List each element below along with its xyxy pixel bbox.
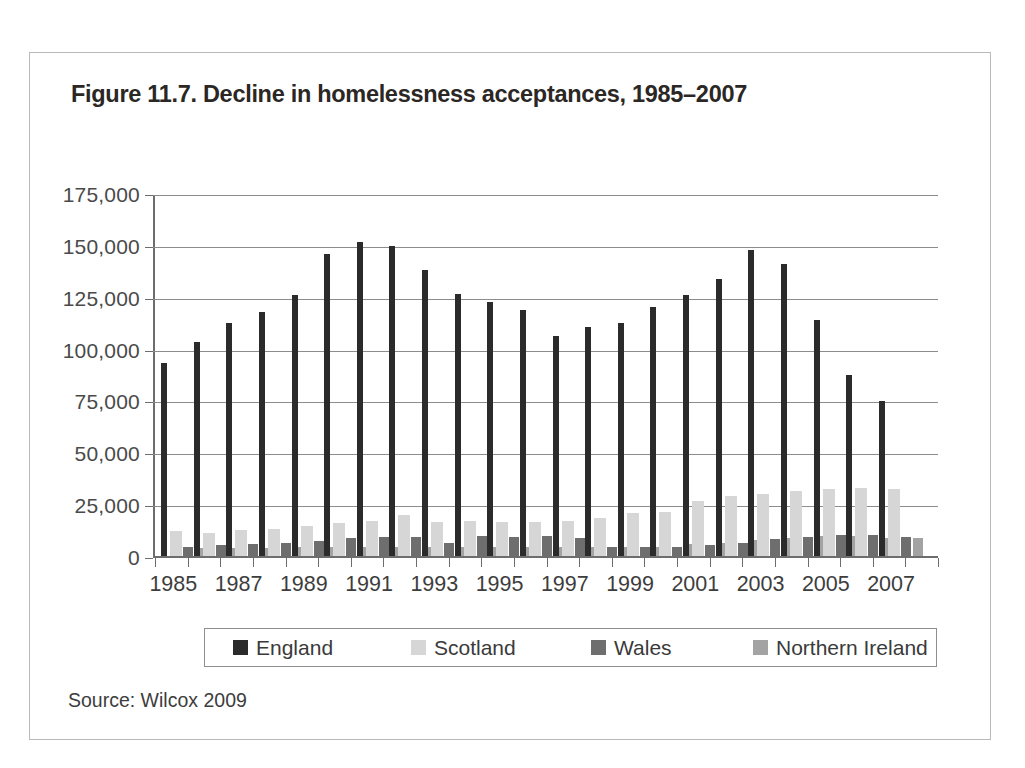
y-axis-label: 0 bbox=[128, 546, 140, 570]
bar-england-1987 bbox=[226, 323, 232, 556]
legend-swatch-icon bbox=[233, 640, 248, 655]
bar-group-1990 bbox=[322, 195, 355, 556]
x-tick-mark bbox=[677, 558, 678, 567]
bar-group-1987 bbox=[224, 195, 257, 556]
x-axis-label-2003: 2003 bbox=[737, 572, 785, 597]
legend-item-northern-ireland[interactable]: Northern Ireland bbox=[753, 636, 928, 660]
y-axis-label: 25,000 bbox=[75, 494, 140, 518]
x-axis-label-2001: 2001 bbox=[671, 572, 719, 597]
x-tick-mark bbox=[383, 558, 384, 567]
bar-scotland-1998 bbox=[594, 518, 606, 556]
y-tick-mark bbox=[145, 506, 153, 507]
x-tick-mark bbox=[481, 558, 482, 567]
bar-england-1997 bbox=[553, 336, 559, 556]
bar-england-1996 bbox=[520, 310, 526, 556]
bar-england-1989 bbox=[292, 295, 298, 556]
y-axis-label: 75,000 bbox=[75, 390, 140, 414]
x-axis-label-1997: 1997 bbox=[541, 572, 589, 597]
y-tick-mark bbox=[145, 299, 153, 300]
x-axis-label-1991: 1991 bbox=[345, 572, 393, 597]
x-tick-mark bbox=[905, 558, 906, 567]
x-tick-mark bbox=[644, 558, 645, 567]
bar-england-1992 bbox=[389, 246, 395, 556]
bar-scotland-1995 bbox=[496, 522, 508, 556]
chart-legend: EnglandScotlandWalesNorthern Ireland bbox=[204, 628, 937, 667]
legend-swatch-icon bbox=[411, 640, 426, 655]
x-tick-mark bbox=[155, 558, 156, 567]
bar-scotland-1997 bbox=[562, 521, 574, 556]
bar-scotland-1996 bbox=[529, 522, 541, 556]
bar-scotland-2003 bbox=[757, 494, 769, 556]
bar-scotland-1987 bbox=[235, 530, 247, 556]
source-note: Source: Wilcox 2009 bbox=[68, 689, 247, 712]
bar-scotland-1986 bbox=[203, 533, 215, 556]
bar-england-1985 bbox=[161, 363, 167, 556]
legend-label: Wales bbox=[614, 636, 672, 660]
x-axis-label-1989: 1989 bbox=[280, 572, 328, 597]
bar-group-1997 bbox=[551, 195, 584, 556]
bar-group-1989 bbox=[290, 195, 323, 556]
bar-scotland-2000 bbox=[659, 512, 671, 556]
bar-scotland-1993 bbox=[431, 522, 443, 556]
y-tick-mark bbox=[145, 454, 153, 455]
x-tick-mark bbox=[840, 558, 841, 567]
x-tick-mark bbox=[449, 558, 450, 567]
bar-england-2006 bbox=[846, 375, 852, 557]
y-axis-label: 150,000 bbox=[63, 235, 140, 259]
x-tick-mark bbox=[351, 558, 352, 567]
bar-england-1986 bbox=[194, 342, 200, 556]
x-tick-mark bbox=[742, 558, 743, 567]
bar-scotland-2002 bbox=[725, 496, 737, 556]
bar-scotland-1989 bbox=[301, 526, 313, 556]
x-tick-mark bbox=[808, 558, 809, 567]
x-tick-mark bbox=[873, 558, 874, 567]
legend-swatch-icon bbox=[753, 640, 768, 655]
x-tick-mark bbox=[188, 558, 189, 567]
bar-group-1999 bbox=[616, 195, 649, 556]
bar-scotland-1994 bbox=[464, 521, 476, 556]
bar-england-1998 bbox=[585, 327, 591, 556]
x-axis-label-1995: 1995 bbox=[476, 572, 524, 597]
bar-group-1992 bbox=[387, 195, 420, 556]
bar-group-1988 bbox=[257, 195, 290, 556]
bar-scotland-1988 bbox=[268, 529, 280, 556]
bar-group-1991 bbox=[355, 195, 388, 556]
y-tick-mark bbox=[145, 195, 153, 196]
legend-item-england[interactable]: England bbox=[233, 636, 333, 660]
bar-scotland-1985 bbox=[170, 531, 182, 556]
x-tick-mark bbox=[416, 558, 417, 567]
x-tick-mark bbox=[253, 558, 254, 567]
y-axis-label: 175,000 bbox=[63, 183, 140, 207]
bar-england-1993 bbox=[422, 270, 428, 556]
bar-scotland-2005 bbox=[823, 489, 835, 556]
x-axis-label-1993: 1993 bbox=[410, 572, 458, 597]
y-axis-label: 100,000 bbox=[63, 339, 140, 363]
bar-england-2002 bbox=[716, 279, 722, 556]
x-tick-mark bbox=[775, 558, 776, 567]
bar-group-1998 bbox=[583, 195, 616, 556]
figure-title: Figure 11.7. Decline in homelessness acc… bbox=[71, 81, 747, 108]
legend-item-wales[interactable]: Wales bbox=[591, 636, 672, 660]
y-tick-mark bbox=[145, 351, 153, 352]
x-axis-label-1999: 1999 bbox=[606, 572, 654, 597]
bar-scotland-1990 bbox=[333, 523, 345, 556]
x-axis-label-1987: 1987 bbox=[215, 572, 263, 597]
bar-england-1995 bbox=[487, 302, 493, 556]
bar-england-2004 bbox=[781, 264, 787, 556]
bar-group-2005 bbox=[812, 195, 845, 556]
bar-england-2001 bbox=[683, 295, 689, 556]
bar-group-2006 bbox=[844, 195, 877, 556]
bar-group-2007 bbox=[877, 195, 910, 556]
bar-group-2003 bbox=[746, 195, 779, 556]
bar-england-2007 bbox=[879, 401, 885, 556]
legend-label: England bbox=[256, 636, 333, 660]
bar-northern-ireland-2007 bbox=[913, 538, 923, 556]
bar-group-1993 bbox=[420, 195, 453, 556]
legend-item-scotland[interactable]: Scotland bbox=[411, 636, 516, 660]
legend-swatch-icon bbox=[591, 640, 606, 655]
x-axis-label-1985: 1985 bbox=[149, 572, 197, 597]
bar-groups bbox=[155, 195, 938, 556]
legend-label: Northern Ireland bbox=[776, 636, 928, 660]
bar-england-1991 bbox=[357, 242, 363, 556]
bar-england-1990 bbox=[324, 254, 330, 556]
